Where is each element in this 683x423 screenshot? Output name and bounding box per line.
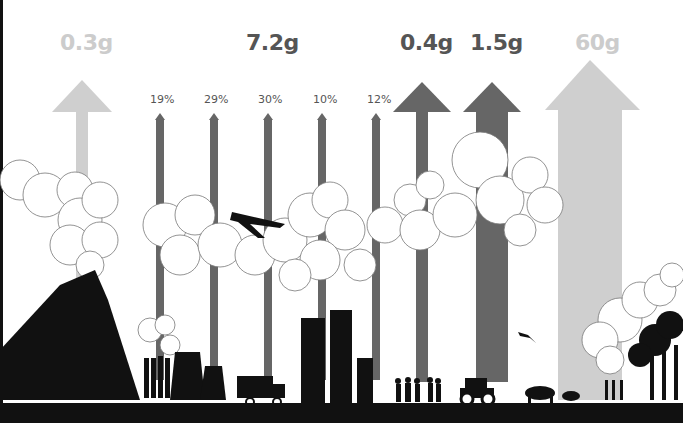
volcano-value: 0.3g [60, 30, 113, 55]
tractor-icon [460, 378, 494, 405]
truck-icon [237, 376, 285, 406]
industry-pct: 19% [150, 93, 174, 106]
people-value: 0.4g [400, 30, 453, 55]
bird-icon [518, 332, 536, 343]
illustration [0, 0, 683, 423]
nature-value: 60g [575, 30, 620, 55]
people-icon [395, 377, 441, 402]
emissions-infographic: 0.3g 7.2g 0.4g 1.5g 60g 19% 29% 30% 10% … [0, 0, 683, 423]
buildings-pct: 10% [313, 93, 337, 106]
transport-pct: 30% [258, 93, 282, 106]
human-total-value: 7.2g [246, 30, 299, 55]
ground [0, 403, 683, 423]
power-pct: 29% [204, 93, 228, 106]
other-pct: 12% [367, 93, 391, 106]
livestock-value: 1.5g [470, 30, 523, 55]
volcano-icon [0, 270, 140, 400]
buildings-icon [301, 310, 373, 403]
